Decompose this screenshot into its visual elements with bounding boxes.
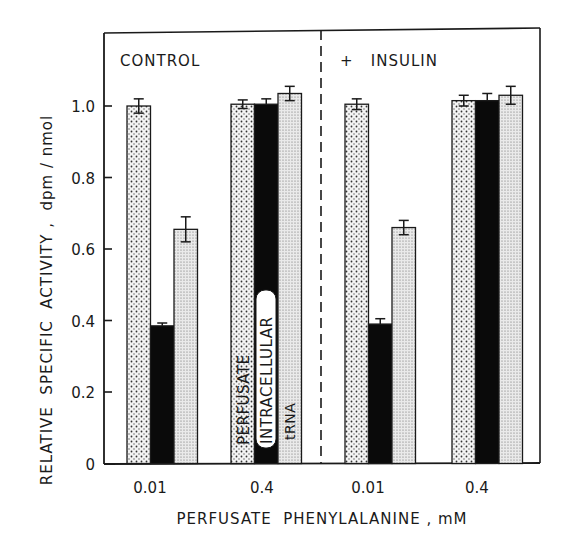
x-axis-title: PERFUSATE PHENYLALANINE , mM	[177, 510, 468, 528]
y-ticks: 00.20.40.60.81.0	[71, 98, 112, 474]
panel-label-control: CONTROL	[120, 52, 200, 70]
x-tick-insulin-001: 0.01	[351, 479, 384, 497]
y-tick-label: 0.2	[71, 384, 95, 402]
bar-intracellular	[476, 101, 500, 464]
bar-trna	[392, 228, 416, 464]
chart: 00.20.40.60.81.0 CONTROL + INSULIN 0.01 …	[0, 0, 575, 542]
error-bar	[261, 99, 271, 104]
x-tick-control-001: 0.01	[133, 479, 166, 497]
x-tick-control-04: 0.4	[250, 479, 274, 497]
bar-intracellular	[369, 324, 393, 463]
bar-trna	[499, 95, 523, 463]
y-axis-title: RELATIVE SPECIFIC ACTIVITY , dpm / nmol	[38, 115, 56, 485]
bar-trna	[174, 229, 198, 463]
panel-label-insulin: + INSULIN	[340, 52, 438, 70]
y-tick-label: 1.0	[71, 98, 95, 116]
error-bar	[482, 93, 492, 100]
bar-perfusate	[452, 101, 476, 464]
bar-perfusate	[127, 106, 151, 464]
legend-trna: tRNA	[282, 403, 298, 440]
y-tick-label: 0.4	[71, 313, 95, 331]
legend-intracellular: INTRACELLULAR	[258, 317, 276, 444]
legend-perfusate: PERFUSATE	[235, 354, 253, 445]
y-tick-label: 0	[85, 456, 95, 474]
error-bar	[375, 319, 385, 324]
x-tick-insulin-04: 0.4	[465, 479, 489, 497]
bar-perfusate	[345, 104, 369, 463]
bars	[127, 86, 523, 463]
y-tick-label: 0.8	[71, 170, 95, 188]
y-tick-label: 0.6	[71, 241, 95, 259]
bar-intracellular	[151, 326, 175, 464]
